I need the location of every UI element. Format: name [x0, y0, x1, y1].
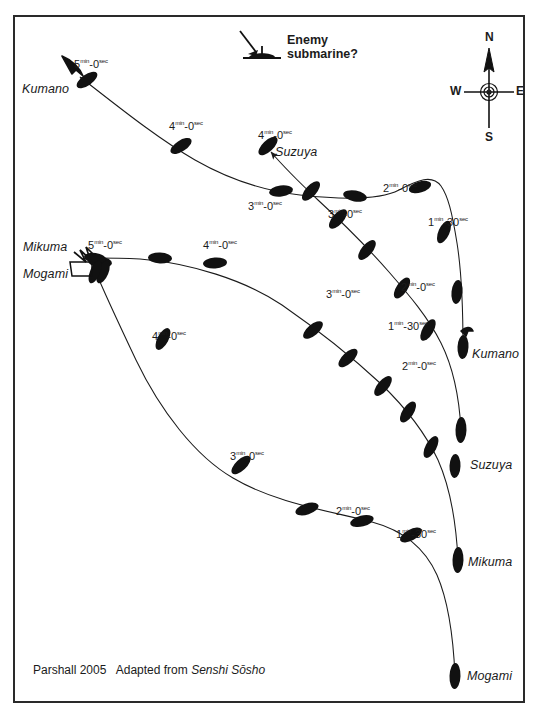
time-min-unit: min: [342, 505, 351, 511]
ship-mark: [449, 663, 461, 689]
time-min-unit: min: [334, 208, 343, 214]
time-min-unit: min: [394, 320, 403, 326]
credit-source-prefix: Adapted from: [116, 663, 188, 677]
time-label-mikuma-3-0: 3min-0sec: [326, 288, 360, 300]
ship-mark: [299, 178, 323, 203]
ship-label-kumano-end: Kumano: [22, 83, 69, 96]
enemy-submarine-label: Enemy submarine?: [287, 33, 358, 62]
time-label-kumano-4-0: 4min-0sec: [169, 120, 203, 132]
time-min-unit: min: [408, 360, 417, 366]
ship-label-suzuya-start: Suzuya: [470, 459, 512, 472]
time-min-unit: min: [254, 200, 263, 206]
time-label-mogami-4-0: 4min-0sec: [152, 330, 186, 342]
time-sec-unit: sec: [361, 505, 370, 511]
ship-label-mogami-end: Mogami: [23, 268, 68, 281]
time-sec-unit: sec: [113, 239, 122, 245]
time-label-mikuma-4-0: 4min-0sec: [203, 239, 237, 251]
time-min-unit: min: [434, 216, 443, 222]
ship-mark: [449, 454, 461, 478]
ship-mark: [452, 547, 464, 573]
compass-south-label: S: [485, 131, 493, 143]
time-sec-value: 30: [447, 216, 459, 228]
time-label-mogami-2-0: 2min-0sec: [336, 505, 370, 517]
time-label-suzuya-2-0: 2min-0sec: [401, 281, 435, 293]
time-label-mikuma-5-0: 5min-0sec: [88, 239, 122, 251]
time-min-unit: min: [94, 239, 103, 245]
figure-canvas: N S E W Enemy submarine? Kumano Suzuya M…: [0, 0, 538, 712]
ship-label-mikuma-end: Mikuma: [23, 241, 67, 254]
ship-label-mikuma-start: Mikuma: [468, 556, 512, 569]
time-label-kumano-2-0: 2min-0sec: [383, 182, 417, 194]
time-label-suzuya-4-0: 4min-0sec: [258, 129, 292, 141]
time-sec-unit: sec: [353, 208, 362, 214]
time-min-unit: min: [80, 58, 89, 64]
time-sec-unit: sec: [255, 450, 264, 456]
ship-mark: [335, 346, 360, 370]
submarine-periscope-icon: [240, 31, 281, 58]
compass-rose-icon: [464, 48, 514, 128]
ship-label-suzuya-end: Suzuya: [275, 146, 317, 159]
time-min-unit: min: [209, 239, 218, 245]
ship-label-kumano-start: Kumano: [472, 348, 519, 361]
compass-north-label: N: [485, 31, 494, 43]
time-min-unit: min: [158, 330, 167, 336]
time-min-unit: min: [236, 450, 245, 456]
time-label-suzuya-3-0: 3min-0sec: [328, 208, 362, 220]
credit-source-title: Senshi Sōsho: [191, 663, 265, 677]
credit-author: Parshall 2005: [33, 663, 106, 677]
time-label-kumano-1-30: 1min-30sec: [428, 216, 468, 228]
time-sec-unit: sec: [427, 528, 436, 534]
ship-mark: [268, 184, 293, 198]
time-sec-unit: sec: [194, 120, 203, 126]
ship-mark: [355, 237, 379, 262]
time-sec-unit: sec: [283, 129, 292, 135]
time-sec-unit: sec: [228, 239, 237, 245]
time-label-suzuya-1-30: 1min-30sec: [388, 320, 428, 332]
time-min-unit: min: [407, 281, 416, 287]
time-label-mogami-1-30: 1min-30sec: [396, 528, 436, 540]
ship-mark: [397, 399, 419, 425]
time-label-mogami-3-0: 3min-0sec: [230, 450, 264, 462]
time-min-unit: min: [389, 182, 398, 188]
time-sec-unit: sec: [426, 281, 435, 287]
time-label-kumano-3-0: 3min-0sec: [248, 200, 282, 212]
time-sec-unit: sec: [273, 200, 282, 206]
time-sec-unit: sec: [427, 360, 436, 366]
time-label-kumano-5-0: 5min-0sec: [74, 58, 108, 70]
time-sec-unit: sec: [419, 320, 428, 326]
time-sec-unit: sec: [459, 216, 468, 222]
ship-mark: [294, 500, 320, 518]
time-min-unit: min: [175, 120, 184, 126]
track-path-kumano: [80, 77, 463, 347]
time-min-unit: min: [402, 528, 411, 534]
ship-mark: [457, 335, 469, 360]
ship-mark: [300, 318, 325, 342]
track-vector-layer: [0, 0, 538, 712]
credit-line: Parshall 2005 Adapted from Senshi Sōsho: [33, 663, 265, 677]
ship-mark: [203, 257, 228, 270]
ship-position-markers: [74, 69, 469, 690]
time-sec-unit: sec: [99, 58, 108, 64]
ship-mark: [455, 417, 467, 443]
ship-mark: [421, 434, 442, 460]
compass-east-label: E: [516, 85, 524, 97]
time-min-unit: min: [332, 288, 341, 294]
enemy-submarine-line2: submarine?: [287, 47, 358, 61]
time-sec-unit: sec: [408, 182, 417, 188]
time-min-unit: min: [264, 129, 273, 135]
time-sec-unit: sec: [177, 330, 186, 336]
compass-west-label: W: [450, 85, 461, 97]
time-sec-value: 30: [407, 320, 419, 332]
ship-mark: [342, 188, 368, 203]
enemy-submarine-line1: Enemy: [287, 33, 358, 47]
time-label-mikuma-2-0: 2min-0sec: [402, 360, 436, 372]
ship-label-mogami-start: Mogami: [467, 670, 512, 683]
time-sec-value: 30: [415, 528, 427, 540]
time-sec-unit: sec: [351, 288, 360, 294]
